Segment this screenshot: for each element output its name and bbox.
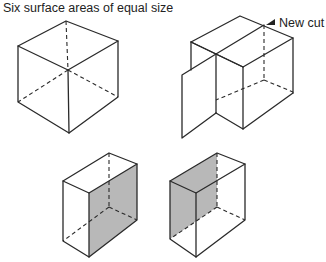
diagram-canvas — [0, 0, 326, 262]
arrow-pointer-icon — [266, 19, 275, 25]
half-block-right-face-shaded — [63, 153, 137, 257]
half-block-left-face-shaded — [170, 153, 245, 257]
cube-with-new-cut — [182, 16, 293, 138]
whole-cube — [18, 21, 118, 133]
